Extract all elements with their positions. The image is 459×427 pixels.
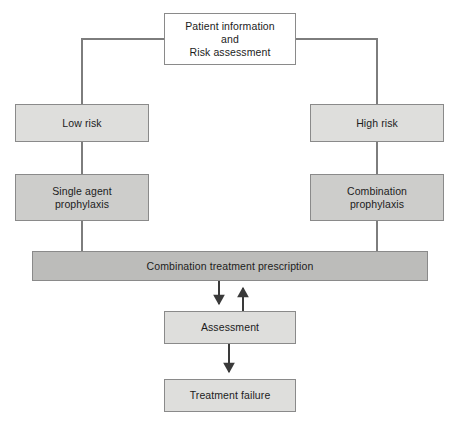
node-assessment: Assessment bbox=[164, 311, 296, 344]
node-high-risk: High risk bbox=[310, 104, 444, 142]
node-patient-information-label: Patient information and Risk assessment bbox=[181, 20, 278, 59]
node-combination-prophylaxis: Combination prophylaxis bbox=[310, 174, 444, 221]
node-combination-prophylaxis-label: Combination prophylaxis bbox=[343, 185, 411, 211]
node-single-agent-prophylaxis: Single agent prophylaxis bbox=[15, 174, 149, 221]
edge-patient-to-low-risk bbox=[82, 39, 164, 104]
node-treatment-failure-label: Treatment failure bbox=[186, 389, 275, 402]
node-combination-treatment-prescription-label: Combination treatment prescription bbox=[143, 260, 318, 273]
node-treatment-failure: Treatment failure bbox=[164, 379, 296, 412]
node-low-risk-label: Low risk bbox=[58, 117, 105, 130]
node-single-agent-prophylaxis-label: Single agent prophylaxis bbox=[48, 185, 116, 211]
flowchart-figure: Patient information and Risk assessment … bbox=[0, 0, 459, 427]
node-low-risk: Low risk bbox=[15, 104, 149, 142]
node-patient-information: Patient information and Risk assessment bbox=[164, 13, 296, 65]
node-high-risk-label: High risk bbox=[352, 117, 402, 130]
node-combination-treatment-prescription: Combination treatment prescription bbox=[32, 251, 428, 281]
edge-patient-to-high-risk bbox=[296, 39, 377, 104]
node-assessment-label: Assessment bbox=[197, 321, 263, 334]
